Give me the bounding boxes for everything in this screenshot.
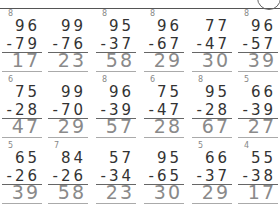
answer-line bbox=[238, 203, 278, 204]
subtraction-problem: 8 95 -37 58 bbox=[96, 16, 136, 80]
problem-row: 5 65 -26 39 7 84 -26 58 57 -34 23 95 -65 bbox=[0, 148, 280, 212]
minuend: 65 bbox=[6, 150, 40, 166]
borrow-mark: 8 bbox=[198, 76, 203, 84]
subtraction-problem: 8 95 -28 67 bbox=[192, 82, 232, 146]
subtraction-problem: 4 55 -38 17 bbox=[238, 148, 278, 212]
borrow-mark: 5 bbox=[8, 142, 13, 150]
answer-line bbox=[144, 71, 184, 72]
problem-row: 8 96 -79 17 99 -76 23 8 95 -37 58 8 96 -… bbox=[0, 16, 280, 80]
answer: 39 bbox=[240, 50, 276, 70]
subtraction-problem: 77 -47 30 bbox=[192, 16, 232, 80]
answer: 29 bbox=[194, 182, 230, 202]
borrow-mark: 8 bbox=[102, 76, 107, 84]
minuend: 84 bbox=[52, 150, 86, 166]
minuend: 55 bbox=[242, 150, 276, 166]
minuend: 57 bbox=[100, 150, 134, 166]
answer: 29 bbox=[146, 50, 182, 70]
minuend: 95 bbox=[148, 150, 182, 166]
borrow-mark: 8 bbox=[244, 10, 249, 18]
answer: 23 bbox=[98, 182, 134, 202]
borrow-mark: 4 bbox=[244, 142, 249, 150]
subtraction-problem: 99 -70 29 bbox=[48, 82, 88, 146]
answer: 27 bbox=[240, 116, 276, 136]
answer-line bbox=[48, 71, 88, 72]
answer: 57 bbox=[98, 116, 134, 136]
answer-line bbox=[192, 71, 232, 72]
answer: 30 bbox=[194, 50, 230, 70]
subtraction-problem: 57 -34 23 bbox=[96, 148, 136, 212]
borrow-mark: 8 bbox=[8, 10, 13, 18]
minuend: 95 bbox=[100, 18, 134, 34]
borrow-mark: 5 bbox=[244, 76, 249, 84]
borrow-mark: 7 bbox=[54, 142, 59, 150]
answer-line bbox=[2, 203, 42, 204]
minuend: 75 bbox=[148, 84, 182, 100]
answer-line bbox=[2, 137, 42, 138]
answer: 58 bbox=[50, 182, 86, 202]
minuend: 96 bbox=[100, 84, 134, 100]
minuend: 66 bbox=[242, 84, 276, 100]
subtraction-problem: 6 75 -28 47 bbox=[2, 82, 42, 146]
minuend: 75 bbox=[6, 84, 40, 100]
answer-line bbox=[144, 137, 184, 138]
answer: 58 bbox=[98, 50, 134, 70]
borrow-mark: 8 bbox=[102, 10, 107, 18]
subtraction-problem: 5 66 -39 27 bbox=[238, 82, 278, 146]
answer: 30 bbox=[146, 182, 182, 202]
answer: 47 bbox=[4, 116, 40, 136]
borrow-mark: 8 bbox=[150, 10, 155, 18]
answer: 67 bbox=[194, 116, 230, 136]
borrow-mark: 5 bbox=[198, 142, 203, 150]
subtraction-problem: 5 66 -37 29 bbox=[192, 148, 232, 212]
answer-line bbox=[96, 71, 136, 72]
answer: 17 bbox=[240, 182, 276, 202]
minuend: 99 bbox=[52, 18, 86, 34]
answer-line bbox=[144, 203, 184, 204]
problem-row: 6 75 -28 47 99 -70 29 8 96 -39 57 6 75 -… bbox=[0, 82, 280, 146]
answer-line bbox=[2, 71, 42, 72]
subtraction-problem: 6 75 -47 28 bbox=[144, 82, 184, 146]
minuend: 96 bbox=[148, 18, 182, 34]
answer-line bbox=[192, 137, 232, 138]
answer: 28 bbox=[146, 116, 182, 136]
minuend: 99 bbox=[52, 84, 86, 100]
answer-line bbox=[48, 137, 88, 138]
answer-line bbox=[238, 71, 278, 72]
answer-line bbox=[192, 203, 232, 204]
subtraction-problem: 8 96 -39 57 bbox=[96, 82, 136, 146]
subtraction-problem: 8 96 -67 29 bbox=[144, 16, 184, 80]
header-rule bbox=[0, 8, 280, 9]
minuend: 77 bbox=[196, 18, 230, 34]
answer: 17 bbox=[4, 50, 40, 70]
subtraction-problem: 99 -76 23 bbox=[48, 16, 88, 80]
answer-line bbox=[48, 203, 88, 204]
answer-line bbox=[96, 137, 136, 138]
answer-line bbox=[96, 203, 136, 204]
borrow-mark: 6 bbox=[8, 76, 13, 84]
subtraction-problem: 8 96 -57 39 bbox=[238, 16, 278, 80]
answer: 23 bbox=[50, 50, 86, 70]
borrow-mark: 6 bbox=[150, 76, 155, 84]
minuend: 96 bbox=[242, 18, 276, 34]
minuend: 96 bbox=[6, 18, 40, 34]
answer: 39 bbox=[4, 182, 40, 202]
subtraction-problem: 95 -65 30 bbox=[144, 148, 184, 212]
answer: 29 bbox=[50, 116, 86, 136]
subtraction-problem: 8 96 -79 17 bbox=[2, 16, 42, 80]
subtraction-problem: 7 84 -26 58 bbox=[48, 148, 88, 212]
answer-line bbox=[238, 137, 278, 138]
subtraction-problem: 5 65 -26 39 bbox=[2, 148, 42, 212]
minuend: 95 bbox=[196, 84, 230, 100]
minuend: 66 bbox=[196, 150, 230, 166]
